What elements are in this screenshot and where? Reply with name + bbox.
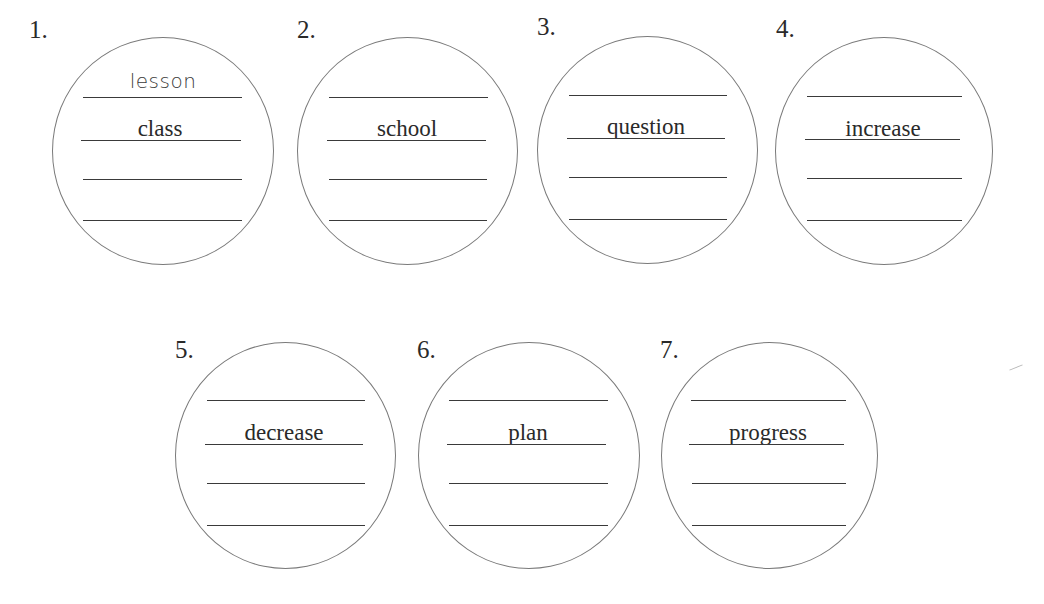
answer-line-1[interactable]	[449, 400, 608, 401]
answer-line-2[interactable]	[805, 139, 960, 140]
answer-line-2[interactable]	[689, 444, 844, 445]
answer-line-1[interactable]	[83, 97, 242, 98]
answer-line-4[interactable]	[569, 219, 727, 220]
answer-line-4[interactable]	[449, 525, 608, 526]
word-web-worksheet: 1. lesson class 2. school 3. question 4.…	[0, 0, 1044, 604]
answer-line-3[interactable]	[329, 179, 487, 180]
target-word: plan	[448, 421, 608, 444]
answer-line-3[interactable]	[207, 483, 365, 484]
answer-line-3[interactable]	[692, 483, 846, 484]
answer-line-2[interactable]	[567, 138, 725, 139]
item-number: 6.	[417, 337, 436, 362]
target-word: decrease	[204, 421, 364, 444]
answer-line-1[interactable]	[569, 95, 727, 96]
word-circle	[775, 37, 993, 265]
answer-line-4[interactable]	[807, 220, 962, 221]
word-circle	[418, 342, 640, 569]
answer-line-1[interactable]	[691, 400, 846, 401]
answer-line-1[interactable]	[329, 97, 488, 98]
answer-line-2[interactable]	[81, 140, 241, 141]
item-number: 3.	[537, 14, 556, 39]
answer-line-1[interactable]	[207, 400, 365, 401]
handwritten-answer: lesson	[83, 71, 243, 91]
answer-line-4[interactable]	[692, 525, 846, 526]
word-circle	[175, 342, 396, 569]
target-word: increase	[803, 117, 963, 140]
answer-line-3[interactable]	[807, 178, 962, 179]
item-number: 2.	[297, 17, 316, 42]
item-number: 5.	[175, 337, 194, 362]
item-number: 7.	[660, 337, 679, 362]
stray-pen-mark	[1009, 364, 1022, 370]
answer-line-4[interactable]	[83, 220, 242, 221]
answer-line-2[interactable]	[205, 444, 363, 445]
answer-line-1[interactable]	[807, 96, 962, 97]
answer-line-4[interactable]	[329, 220, 487, 221]
answer-line-3[interactable]	[569, 177, 727, 178]
answer-line-2[interactable]	[327, 140, 486, 141]
item-number: 1.	[29, 17, 48, 42]
answer-line-3[interactable]	[83, 179, 242, 180]
target-word: class	[80, 117, 240, 140]
word-circle	[661, 342, 878, 569]
target-word: school	[327, 117, 487, 140]
word-circle	[297, 37, 518, 265]
item-number: 4.	[776, 16, 795, 41]
answer-line-4[interactable]	[207, 525, 365, 526]
word-circle	[537, 36, 758, 264]
answer-line-2[interactable]	[447, 444, 606, 445]
target-word: progress	[688, 421, 848, 444]
answer-line-3[interactable]	[449, 483, 608, 484]
target-word: question	[566, 115, 726, 138]
